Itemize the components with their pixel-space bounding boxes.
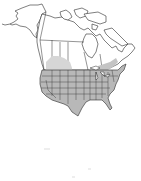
range-map xyxy=(0,0,141,181)
